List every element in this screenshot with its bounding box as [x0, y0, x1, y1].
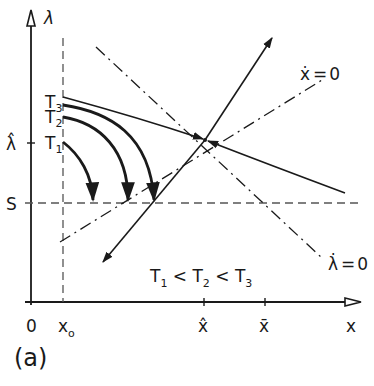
saddle-point	[203, 138, 207, 142]
stable-manifold-left	[63, 97, 203, 139]
unstable-manifold-up	[205, 38, 272, 140]
x-dot-zero-label: ẋ=0	[300, 64, 340, 84]
phase-diagram: λ x 0 xo x̂ x̄ λ̂ S T3 T2 T1 ẋ=0 λ̇=0 T1…	[0, 0, 374, 386]
lambda-dot-zero-isocline	[96, 47, 322, 258]
panel-label: (a)	[14, 344, 47, 372]
inequality-label: T1 < T2 < T3	[149, 266, 252, 290]
x-axis-open-arrow-icon	[345, 298, 361, 306]
x0-tick-label: xo	[58, 316, 75, 340]
origin-label: 0	[26, 316, 37, 336]
x-hat-tick-label: x̂	[198, 316, 208, 336]
x-dot-zero-isocline	[60, 80, 322, 242]
t1-label: T1	[44, 133, 62, 156]
y-axis	[27, 10, 35, 305]
x-axis	[25, 298, 361, 306]
stable-manifold-right	[208, 141, 345, 193]
trajectory-t2	[63, 117, 128, 200]
y-axis-open-arrow-icon	[27, 10, 35, 26]
s-tick-label: S	[6, 194, 17, 214]
lambda-hat-tick-label: λ̂	[6, 132, 16, 154]
y-axis-label: λ	[43, 8, 54, 28]
x-axis-label: x	[346, 316, 356, 336]
lambda-dot-zero-label: λ̇=0	[328, 252, 368, 274]
x-bar-tick-label: x̄	[259, 316, 269, 336]
trajectory-t1	[63, 142, 93, 200]
